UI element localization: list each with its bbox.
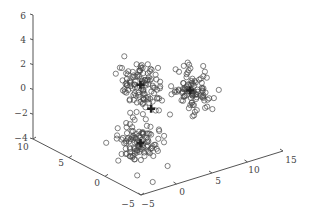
axes: 6 4 2 0 −2 −4 10 5 0 −5 −5 0 5 10 15	[14, 11, 297, 209]
data-point	[161, 140, 166, 145]
y-tick-mark	[69, 156, 72, 158]
x-tick-mark	[174, 182, 177, 184]
data-point	[113, 71, 118, 76]
data-point	[120, 135, 125, 140]
data-point	[150, 179, 155, 184]
y-axis-line	[33, 139, 141, 195]
data-point	[167, 112, 172, 117]
x-tick-neg5: −5	[141, 199, 155, 209]
z-tick-neg2: −2	[14, 108, 27, 118]
data-point	[210, 107, 215, 112]
data-point	[169, 84, 174, 89]
data-point	[143, 117, 148, 122]
plus-marker	[147, 105, 155, 113]
z-tick-mark	[30, 14, 33, 15]
data-point	[145, 62, 150, 67]
data-point	[165, 163, 170, 168]
data-point	[142, 154, 147, 159]
y-tick-10: 10	[17, 142, 29, 152]
data-point	[104, 140, 109, 145]
data-point	[115, 126, 120, 131]
axis-ticks	[30, 14, 283, 195]
cluster-2	[104, 105, 171, 185]
x-tick-mark	[280, 149, 283, 151]
data-point	[116, 158, 121, 163]
data-point	[162, 133, 167, 138]
data-point	[156, 136, 161, 141]
data-point	[134, 109, 139, 114]
scatter3d-chart: 6 4 2 0 −2 −4 10 5 0 −5 −5 0 5 10 15	[0, 0, 312, 219]
data-point	[122, 54, 127, 59]
x-tick-15: 15	[285, 155, 297, 165]
data-point	[144, 123, 149, 128]
data-point	[216, 87, 221, 92]
data-point	[119, 137, 124, 142]
data-point	[114, 136, 119, 141]
data-point	[155, 65, 160, 70]
z-tick-0: 0	[20, 83, 26, 93]
data-point	[135, 173, 140, 178]
x-tick-0: 0	[179, 187, 185, 197]
y-tick-neg5: −5	[121, 199, 135, 209]
data-point	[204, 75, 209, 80]
data-point	[151, 153, 156, 158]
x-tick-mark	[245, 160, 248, 162]
data-point	[192, 113, 197, 118]
x-tick-mark	[209, 171, 212, 173]
z-tick-2: 2	[20, 59, 26, 69]
data-point	[140, 112, 145, 117]
scatter-points	[104, 54, 222, 185]
data-point	[181, 81, 186, 86]
axis-tick-labels: 6 4 2 0 −2 −4 10 5 0 −5 −5 0 5 10 15	[14, 11, 297, 209]
z-tick-4: 4	[20, 35, 26, 45]
x-tick-5: 5	[215, 176, 221, 186]
data-point	[148, 124, 153, 129]
data-point	[186, 106, 191, 111]
y-tick-mark	[105, 174, 108, 176]
y-tick-0: 0	[94, 178, 100, 188]
z-tick-6: 6	[20, 11, 26, 21]
data-point	[201, 63, 206, 68]
y-tick-5: 5	[58, 158, 64, 168]
x-tick-10: 10	[248, 165, 260, 175]
